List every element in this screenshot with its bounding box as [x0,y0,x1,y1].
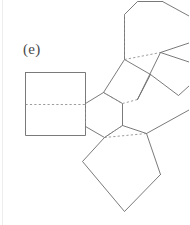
net-dashed-edge-3 [123,100,138,104]
net-solid-edge-0 [26,73,86,136]
net-solid-edge-4 [138,53,161,100]
solid-edges-group [26,2,190,212]
dashed-edges-group [26,15,161,138]
net-solid-edge-2 [104,60,151,100]
net-solid-edge-7 [123,110,190,134]
net-dashed-edge-4 [125,53,161,60]
net-solid-edge-8 [83,138,161,212]
net-solid-edge-9 [147,134,161,175]
net-solid-edge-1 [86,93,123,138]
net-solid-edge-5 [161,43,190,53]
net-solid-edge-3 [125,2,163,60]
net-dashed-edge-5 [105,134,147,138]
polyhedron-net-figure [0,0,189,225]
figure-label: (e) [23,42,41,57]
net-solid-edge-11 [163,2,190,17]
figure-page: (e) [0,0,189,225]
net-solid-edge-10 [151,75,190,96]
net-solid-edge-6 [161,53,190,63]
